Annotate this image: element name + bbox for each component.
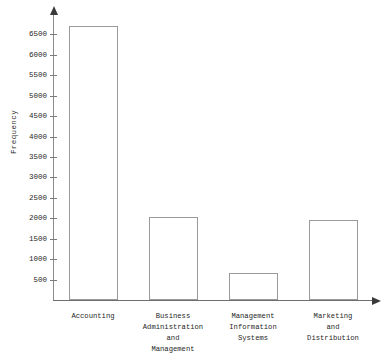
y-axis-tick-label: 500 — [7, 276, 47, 284]
y-axis-tick-label: 4500 — [7, 112, 47, 120]
y-axis-tick — [50, 177, 57, 178]
bar — [229, 273, 278, 300]
y-axis-tick-label: 6000 — [7, 51, 47, 59]
bar — [309, 220, 358, 300]
y-axis-tick — [50, 137, 57, 138]
y-axis-tick — [50, 239, 57, 240]
y-axis-arrow-icon — [50, 6, 58, 15]
y-axis-tick-label: 5500 — [7, 71, 47, 79]
y-axis-tick-label: 6500 — [7, 30, 47, 38]
y-axis-tick-label: 4000 — [7, 133, 47, 141]
y-axis-tick-label: 3000 — [7, 173, 47, 181]
y-axis-tick — [50, 75, 57, 76]
x-axis-category-label: Accounting — [53, 311, 133, 322]
y-axis-tick-label: 1000 — [7, 255, 47, 263]
y-axis-tick-label: 5000 — [7, 92, 47, 100]
x-axis-line — [53, 300, 374, 301]
bar-chart: Frequency 500100015002000250030003500400… — [0, 0, 391, 363]
y-axis-tick — [50, 157, 57, 158]
y-axis-tick — [50, 218, 57, 219]
y-axis-tick — [50, 55, 57, 56]
y-axis-tick-label: 2500 — [7, 194, 47, 202]
bar — [69, 26, 118, 300]
y-axis-tick — [50, 34, 57, 35]
y-axis-tick — [50, 198, 57, 199]
y-axis-tick — [50, 96, 57, 97]
x-axis-arrow-icon — [372, 297, 381, 305]
y-axis-tick-label: 3500 — [7, 153, 47, 161]
x-axis-category-label: Business Administration and Management — [133, 311, 213, 355]
y-axis-tick-label: 2000 — [7, 214, 47, 222]
y-axis-tick — [50, 259, 57, 260]
y-axis-tick-label: 1500 — [7, 235, 47, 243]
x-axis-category-label: Marketing and Distribution — [293, 311, 373, 344]
y-axis-tick — [50, 280, 57, 281]
x-axis-category-label: Management Information Systems — [213, 311, 293, 344]
bar — [149, 217, 198, 300]
y-axis-tick — [50, 116, 57, 117]
